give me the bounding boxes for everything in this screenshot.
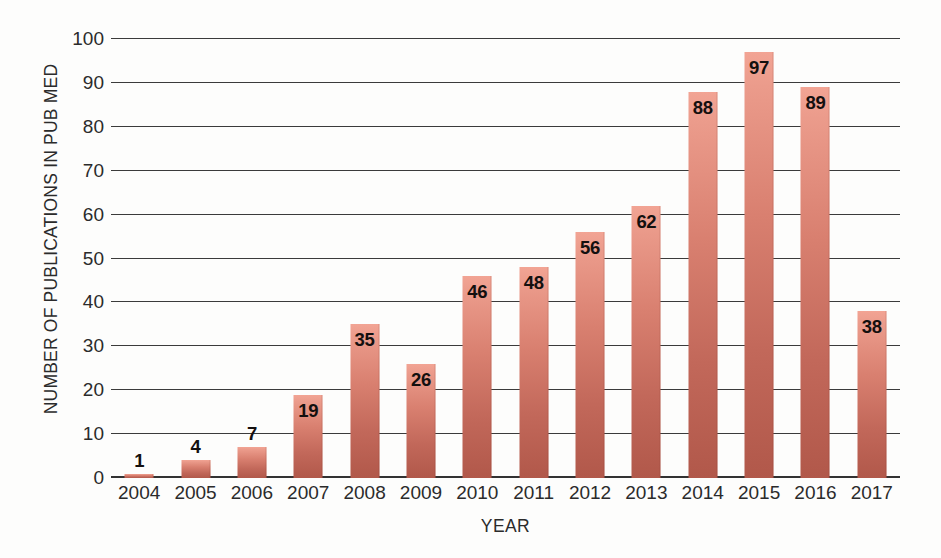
y-axis-tick-label: 30 — [24, 335, 104, 357]
y-axis-tick-label: 20 — [24, 379, 104, 401]
x-axis-tick-label: 2015 — [731, 482, 787, 504]
x-axis-tick-label: 2009 — [393, 482, 449, 504]
bar-slot: 26 — [393, 39, 449, 478]
bar-value-label: 88 — [693, 97, 713, 119]
bar[interactable]: 38 — [857, 311, 886, 478]
x-axis-tick-label: 2005 — [167, 482, 223, 504]
bar-value-label: 38 — [862, 316, 882, 338]
bar-series: 1471935264648566288978938 — [111, 39, 900, 478]
bar-slot: 1 — [111, 39, 167, 478]
y-axis-tick-label: 0 — [24, 467, 104, 489]
bar-value-label: 1 — [134, 450, 144, 472]
bar-value-label: 4 — [191, 436, 201, 458]
y-axis-tick-label: 100 — [24, 28, 104, 50]
bar-slot: 4 — [167, 39, 223, 478]
x-axis-tick-label: 2014 — [675, 482, 731, 504]
bar-slot: 48 — [506, 39, 562, 478]
bar-value-label: 19 — [298, 400, 318, 422]
plot-area: 1471935264648566288978938 — [111, 39, 900, 478]
bar-value-label: 46 — [467, 281, 487, 303]
x-axis-tick-label: 2008 — [336, 482, 392, 504]
y-axis-tick-label: 70 — [24, 160, 104, 182]
bar-slot: 7 — [224, 39, 280, 478]
bar[interactable]: 48 — [519, 267, 548, 478]
y-axis-tick-labels: 0102030405060708090100 — [24, 0, 104, 558]
bar[interactable]: 97 — [745, 52, 774, 478]
x-axis-tick-label: 2011 — [506, 482, 562, 504]
x-axis-tick-label: 2013 — [618, 482, 674, 504]
bar-value-label: 26 — [411, 369, 431, 391]
bar-value-label: 35 — [355, 329, 375, 351]
bar[interactable]: 4 — [181, 460, 210, 478]
y-axis-tick-label: 50 — [24, 248, 104, 270]
bar-value-label: 62 — [636, 211, 656, 233]
bar-slot: 38 — [844, 39, 900, 478]
x-axis-tick-label: 2007 — [280, 482, 336, 504]
bar[interactable]: 7 — [237, 447, 266, 478]
bar-slot: 89 — [787, 39, 843, 478]
y-axis-tick-label: 10 — [24, 423, 104, 445]
x-axis-tick-label: 2016 — [787, 482, 843, 504]
y-axis-tick-label: 90 — [24, 72, 104, 94]
bar-slot: 88 — [675, 39, 731, 478]
x-axis-tick-label: 2006 — [224, 482, 280, 504]
bar-slot: 97 — [731, 39, 787, 478]
bar[interactable]: 56 — [576, 232, 605, 478]
x-axis-tick-label: 2004 — [111, 482, 167, 504]
bar[interactable]: 46 — [463, 276, 492, 478]
bar[interactable]: 35 — [350, 324, 379, 478]
bar-value-label: 97 — [749, 57, 769, 79]
x-axis-tick-label: 2010 — [449, 482, 505, 504]
bar-slot: 46 — [449, 39, 505, 478]
x-axis-title: YEAR — [111, 516, 900, 537]
bar-value-label: 48 — [524, 272, 544, 294]
bar[interactable]: 1 — [125, 474, 154, 478]
bar-value-label: 89 — [805, 92, 825, 114]
bar-slot: 62 — [618, 39, 674, 478]
bar-chart: NUMBER OF PUBLICATIONS IN PUB MED 010203… — [0, 0, 941, 558]
bar[interactable]: 62 — [632, 206, 661, 478]
bar[interactable]: 19 — [294, 395, 323, 478]
bar[interactable]: 26 — [406, 364, 435, 478]
bar-value-label: 56 — [580, 237, 600, 259]
y-axis-tick-label: 40 — [24, 291, 104, 313]
bar-value-label: 7 — [247, 423, 257, 445]
x-axis-tick-label: 2017 — [844, 482, 900, 504]
bar[interactable]: 88 — [688, 92, 717, 478]
x-axis-tick-labels: 2004200520062007200820092010201120122013… — [111, 482, 900, 512]
bar-slot: 56 — [562, 39, 618, 478]
x-axis-tick-label: 2012 — [562, 482, 618, 504]
y-axis-tick-label: 80 — [24, 116, 104, 138]
bar-slot: 19 — [280, 39, 336, 478]
bar-slot: 35 — [336, 39, 392, 478]
y-axis-tick-label: 60 — [24, 204, 104, 226]
bar[interactable]: 89 — [801, 87, 830, 478]
